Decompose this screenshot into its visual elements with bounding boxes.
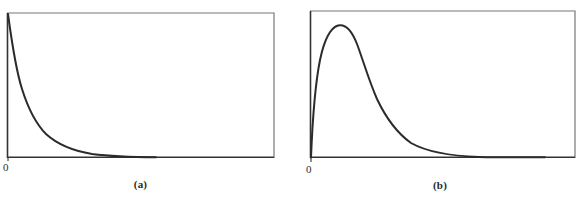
curve-b-unimodal-density: [311, 25, 545, 157]
figure-container: 0 (a) 0 (b): [0, 0, 587, 206]
curve-a-exponential-decay: [8, 14, 156, 157]
plot-b-canvas: [293, 0, 587, 175]
plot-frame-b: [310, 11, 575, 158]
origin-label-b: 0: [306, 163, 312, 175]
panel-caption-a: (a): [0, 178, 281, 190]
plot-a-canvas: [0, 0, 293, 175]
panel-a: 0 (a): [0, 0, 293, 206]
origin-label-a: 0: [3, 161, 9, 173]
panel-b: 0 (b): [293, 0, 587, 206]
panel-caption-b: (b): [293, 179, 587, 191]
